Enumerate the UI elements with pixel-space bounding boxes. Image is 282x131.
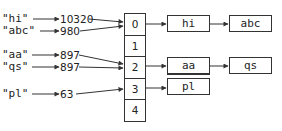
arrow-897a-bucket2 [79, 55, 123, 64]
bucket-4: 4 [124, 99, 146, 122]
arrow-10320-bucket0 [89, 19, 123, 22]
key-label-abc: "abc" [2, 25, 35, 37]
node-abc: abc [229, 15, 272, 32]
node-hi: hi [167, 15, 210, 32]
hash-value-aa: 897 [60, 49, 80, 61]
hash-value-hi: 10320 [60, 13, 93, 25]
arrow-63-bucket3 [76, 89, 123, 94]
key-label-pl: "pl" [2, 88, 29, 100]
key-label-qs: "qs" [2, 61, 29, 73]
bucket-1: 1 [124, 35, 146, 58]
bucket-2: 2 [124, 56, 146, 79]
hash-value-pl: 63 [60, 88, 73, 100]
node-pl: pl [167, 78, 210, 95]
hash-value-abc: 980 [60, 25, 80, 37]
arrow-897b-bucket2 [79, 67, 123, 68]
hash-value-qs: 897 [60, 61, 80, 73]
bucket-3: 3 [124, 78, 146, 101]
node-aa: aa [167, 57, 210, 75]
bucket-0: 0 [124, 13, 146, 36]
arrow-980-bucket0 [80, 26, 123, 31]
node-qs: qs [229, 57, 272, 74]
